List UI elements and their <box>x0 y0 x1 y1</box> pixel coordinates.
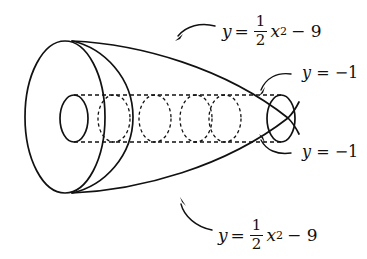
bore-front-ellipse <box>60 95 88 142</box>
label-top-equation-lhs: y <box>222 23 232 40</box>
label-lower-line-rhs: = −1 <box>316 142 358 161</box>
leader-top-equation <box>178 24 215 36</box>
label-bottom-equation-tail: − 9 <box>287 227 317 244</box>
label-upper-line-rhs: = −1 <box>316 63 358 82</box>
label-upper-line-lhs: y <box>302 63 311 82</box>
label-bottom-equation-equals: = <box>231 227 245 244</box>
label-bottom-equation: y = 1 2 x 2 − 9 <box>218 218 317 253</box>
label-top-equation-exponent: 2 <box>280 26 287 37</box>
label-top-equation-variable: x <box>270 23 280 40</box>
label-bottom-equation-fraction: 1 2 <box>250 218 264 253</box>
label-bottom-equation-denominator: 2 <box>250 236 264 253</box>
label-top-equation-numerator: 1 <box>254 14 268 31</box>
label-lower-line: y = −1 <box>302 144 358 160</box>
label-top-equation-denominator: 2 <box>254 32 268 49</box>
parabola-lower-curve <box>72 102 299 193</box>
label-top-equation-tail: − 9 <box>291 23 321 40</box>
bore-cross-section-1 <box>98 95 130 142</box>
leader-upper-line <box>261 74 291 90</box>
bore-cross-section-2 <box>139 95 171 142</box>
left-ellipse-back-arc <box>72 41 133 193</box>
right-end-ellipse <box>267 95 295 142</box>
label-top-equation-fraction: 1 2 <box>254 14 268 49</box>
label-bottom-equation-numerator: 1 <box>250 218 264 235</box>
label-lower-line-lhs: y <box>302 142 311 161</box>
figure-root: y = 1 2 x 2 − 9 y = −1 y = −1 y = 1 2 x … <box>0 0 367 259</box>
label-bottom-equation-lhs: y <box>218 227 228 244</box>
label-bottom-equation-exponent: 2 <box>276 230 283 241</box>
leader-bottom-equation <box>181 204 212 230</box>
label-top-equation-equals: = <box>235 23 249 40</box>
label-bottom-equation-variable: x <box>266 227 276 244</box>
left-outer-ellipse <box>25 41 105 193</box>
bore-cross-section-3 <box>180 95 212 142</box>
parabola-upper-curve <box>72 41 299 134</box>
bore-cross-section-4 <box>209 95 241 142</box>
label-upper-line: y = −1 <box>302 65 358 81</box>
label-top-equation: y = 1 2 x 2 − 9 <box>222 14 321 49</box>
